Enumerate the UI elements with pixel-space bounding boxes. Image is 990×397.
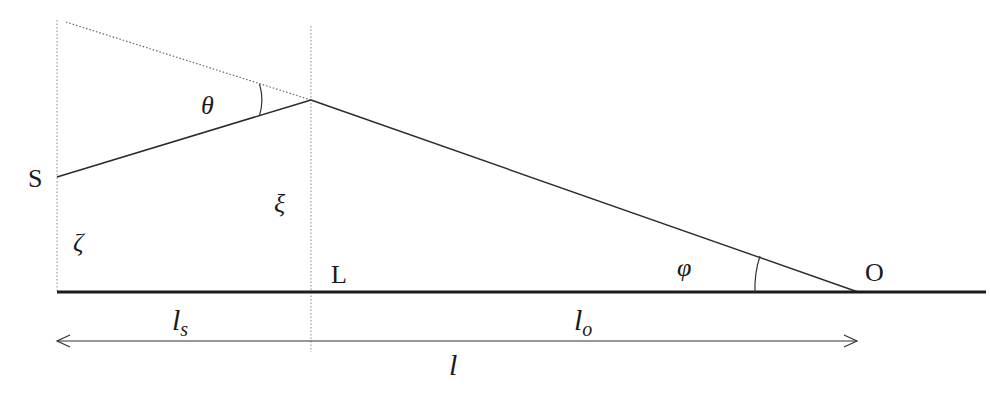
apparent-ray-extension (66, 22, 311, 100)
lens-label: L (331, 262, 347, 288)
source-label: S (28, 166, 42, 192)
lo-sub: o (582, 318, 592, 340)
phi-label: φ (677, 255, 691, 281)
ls-sub: s (180, 318, 188, 340)
source-lens-distance-label: ls (172, 305, 188, 335)
ray-lens-to-observer (311, 100, 858, 292)
total-distance-label: l (449, 350, 457, 380)
theta-label: θ (201, 93, 214, 119)
lens-observer-distance-label: lo (574, 305, 592, 335)
xi-label: ξ (274, 191, 285, 217)
observer-label: O (865, 260, 884, 286)
phi-arc (755, 256, 760, 292)
theta-arc (260, 84, 262, 116)
lens-diagram (0, 0, 990, 397)
ray-source-to-lens (57, 100, 311, 177)
zeta-label: ζ (73, 230, 84, 256)
